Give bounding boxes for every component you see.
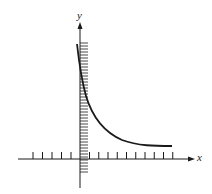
x-axis-label: x (197, 152, 202, 163)
hatched-region (80, 43, 88, 172)
y-axis-arrow-icon (78, 22, 83, 29)
y-axis-label: y (77, 10, 82, 21)
graph-figure (0, 0, 212, 194)
x-axis-ticks (33, 152, 173, 159)
decay-curve (77, 44, 172, 146)
x-axis-arrow-icon (188, 157, 195, 162)
